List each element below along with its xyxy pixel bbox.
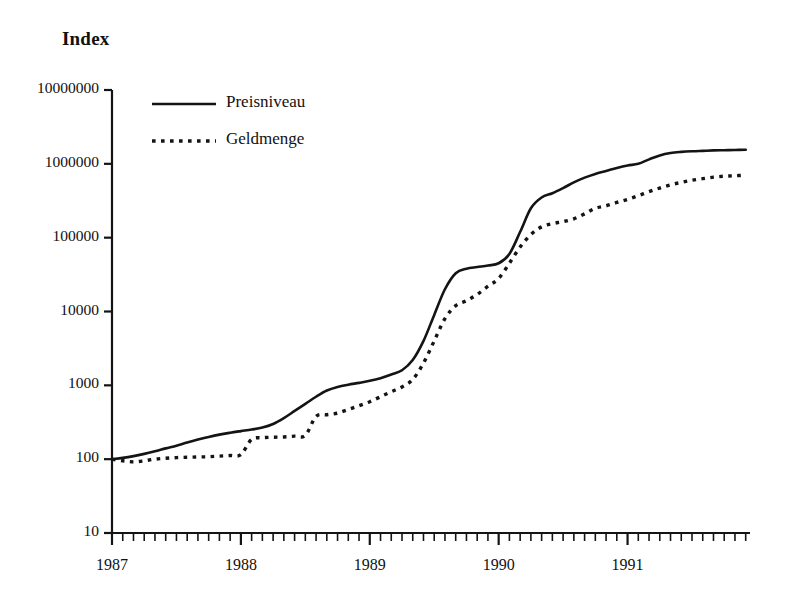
y-tick-label: 10 [84,522,100,540]
chart-figure: Index 1000000010000001000001000010001001… [0,0,786,613]
y-tick-label: 10000 [60,301,99,319]
legend-label-geldmenge: Geldmenge [226,129,304,149]
legend-label-preisniveau: Preisniveau [226,92,305,112]
x-tick-label: 1990 [459,556,539,574]
y-tick-label: 10000000 [37,79,99,97]
chart-plot-area [0,0,786,613]
x-tick-label: 1991 [588,556,668,574]
series-line-geldmenge [112,175,746,462]
x-tick-label: 1988 [201,556,281,574]
x-tick-label: 1989 [330,556,410,574]
y-tick-label: 1000000 [45,153,99,171]
series-line-preisniveau [112,150,746,459]
y-tick-label: 1000 [68,374,99,392]
x-tick-label: 1987 [72,556,152,574]
y-tick-label: 100 [76,448,99,466]
y-axis-ticks [104,90,112,533]
y-tick-label: 100000 [53,227,100,245]
x-axis-ticks [112,533,746,545]
